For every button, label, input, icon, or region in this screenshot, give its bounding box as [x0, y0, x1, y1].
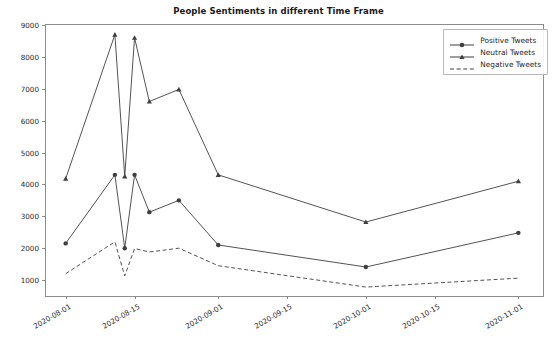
data-point-marker: [147, 99, 152, 104]
data-point-marker: [132, 35, 137, 40]
data-point-marker: [123, 246, 127, 250]
x-tick-label: 2020-08-15: [97, 302, 141, 333]
x-tick-label: 2020-11-01: [481, 302, 525, 333]
y-tick-label: 5000: [6, 148, 39, 157]
x-tick-label: 2020-10-15: [397, 302, 441, 333]
chart-figure: People Sentiments in different Time Fram…: [0, 0, 557, 354]
y-tick-label: 8000: [6, 52, 39, 61]
x-tick-mark: [435, 296, 436, 299]
y-tick-label: 3000: [6, 212, 39, 221]
data-point-marker: [132, 173, 136, 177]
legend-item-neutral-tweets[interactable]: Neutral Tweets: [449, 46, 541, 58]
x-tick-label: 2020-08-01: [28, 302, 72, 333]
data-point-marker: [122, 174, 127, 179]
series-positive-tweets-line: [66, 175, 519, 267]
data-point-marker: [176, 87, 181, 92]
x-tick-label: 2020-10-01: [328, 302, 372, 333]
y-tick-mark: [42, 25, 45, 26]
x-tick-label: 2020-09-15: [249, 302, 293, 333]
data-point-marker: [147, 210, 151, 214]
x-tick-mark: [366, 296, 367, 299]
y-tick-mark: [42, 184, 45, 185]
legend-label: Neutral Tweets: [480, 48, 535, 57]
data-point-marker: [516, 179, 521, 184]
data-point-marker: [216, 172, 221, 177]
y-tick-label: 4000: [6, 180, 39, 189]
series-negative-tweets: [66, 242, 519, 287]
legend-none-icon: [449, 59, 475, 69]
y-tick-mark: [42, 280, 45, 281]
data-point-marker: [364, 265, 368, 269]
y-tick-label: 2000: [6, 244, 39, 253]
y-tick-mark: [42, 216, 45, 217]
y-tick-mark: [42, 248, 45, 249]
legend-triangle-icon: [449, 47, 475, 57]
legend-item-negative-tweets[interactable]: Negative Tweets: [449, 58, 541, 70]
series-negative-tweets-line: [66, 242, 519, 287]
legend-label: Positive Tweets: [480, 36, 536, 45]
data-point-marker: [112, 32, 117, 37]
y-tick-label: 6000: [6, 116, 39, 125]
chart-legend: Positive TweetsNeutral TweetsNegative Tw…: [443, 29, 548, 75]
x-tick-mark: [66, 296, 67, 299]
data-point-marker: [177, 198, 181, 202]
y-tick-label: 9000: [6, 21, 39, 30]
y-tick-label: 1000: [6, 276, 39, 285]
series-positive-tweets: [63, 173, 520, 270]
x-tick-label: 2020-09-01: [180, 302, 224, 333]
y-tick-label: 7000: [6, 84, 39, 93]
data-point-marker: [216, 243, 220, 247]
y-tick-mark: [42, 57, 45, 58]
x-tick-mark: [218, 296, 219, 299]
data-point-marker: [63, 176, 68, 181]
data-point-marker: [516, 231, 520, 235]
x-tick-mark: [135, 296, 136, 299]
legend-circle-icon: [449, 35, 475, 45]
x-tick-mark: [518, 296, 519, 299]
chart-title: People Sentiments in different Time Fram…: [0, 6, 557, 16]
legend-label: Negative Tweets: [480, 60, 541, 69]
legend-item-positive-tweets[interactable]: Positive Tweets: [449, 34, 541, 46]
y-tick-mark: [42, 153, 45, 154]
y-tick-mark: [42, 89, 45, 90]
y-tick-mark: [42, 121, 45, 122]
data-point-marker: [113, 173, 117, 177]
data-point-marker: [63, 241, 67, 245]
x-tick-mark: [287, 296, 288, 299]
